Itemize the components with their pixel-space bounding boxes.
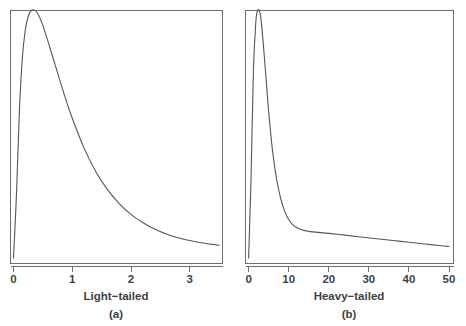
x-axis-ticks-b (249, 267, 449, 272)
plot-frame-b (246, 11, 454, 264)
density-curve-light-tailed (14, 10, 220, 258)
density-curve-heavy-tailed (249, 9, 449, 258)
x-tick-label-30: 30 (362, 273, 375, 285)
panel-light-tailed: 0123 Light−tailed (a) (0, 0, 233, 326)
x-tick-label-20: 20 (322, 273, 335, 285)
x-axis-title-b: Heavy−tailed (314, 290, 385, 302)
x-tick-label-2: 2 (128, 273, 134, 285)
panel-heavy-tailed: 01020304050 Heavy−tailed (b) (233, 0, 466, 326)
x-tick-label-40: 40 (403, 273, 416, 285)
figure-two-density-panels: 0123 Light−tailed (a) 01020304050 Heavy−… (0, 0, 466, 326)
heavy-tailed-plot: 01020304050 Heavy−tailed (b) (233, 0, 466, 326)
x-tick-label-0: 0 (245, 273, 251, 285)
panel-caption-b: (b) (342, 308, 357, 320)
x-tick-label-10: 10 (282, 273, 295, 285)
x-axis-ticks-a (14, 267, 190, 272)
x-axis-tick-labels-a: 0123 (10, 273, 193, 285)
x-tick-label-50: 50 (443, 273, 456, 285)
x-tick-label-3: 3 (186, 273, 192, 285)
x-tick-label-1: 1 (69, 273, 76, 285)
x-axis-title-a: Light−tailed (84, 290, 149, 302)
plot-frame-a (11, 11, 223, 264)
x-tick-label-0: 0 (10, 273, 16, 285)
light-tailed-plot: 0123 Light−tailed (a) (0, 0, 233, 326)
panel-caption-a: (a) (109, 308, 123, 320)
x-axis-tick-labels-b: 01020304050 (245, 273, 455, 285)
